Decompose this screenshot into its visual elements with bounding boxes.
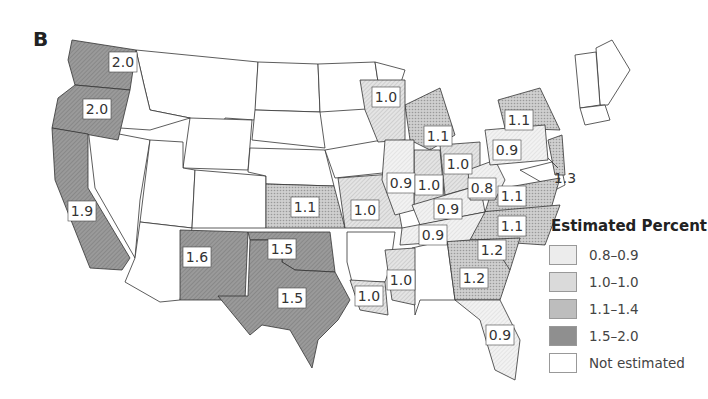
legend-label: 1.5–2.0 bbox=[589, 328, 639, 344]
legend-item: 1.1–1.4 bbox=[551, 295, 707, 322]
value-label: 1.1 bbox=[501, 218, 523, 234]
value-label: 1.1 bbox=[294, 199, 316, 215]
legend-item: 1.0–1.0 bbox=[551, 268, 707, 295]
value-label: 1.0 bbox=[447, 156, 469, 172]
value-label: 1.0 bbox=[418, 177, 440, 193]
value-label: 0.8 bbox=[471, 180, 493, 196]
legend-title: Estimated Percent bbox=[551, 217, 707, 235]
callout-value: 1.3 bbox=[554, 170, 576, 186]
value-label: 1.1 bbox=[501, 188, 523, 204]
value-label: 1.0 bbox=[375, 89, 397, 105]
legend-swatch bbox=[549, 245, 577, 265]
value-label: 0.9 bbox=[422, 227, 444, 243]
value-label: 2.0 bbox=[112, 54, 134, 70]
legend-swatch bbox=[549, 326, 577, 346]
value-label: 1.0 bbox=[358, 288, 380, 304]
legend-label: 1.0–1.0 bbox=[589, 274, 639, 290]
value-label: 1.6 bbox=[186, 249, 208, 265]
legend-item: Not estimated bbox=[551, 349, 707, 376]
legend: Estimated Percent 0.8–0.9 1.0–1.0 1.1–1.… bbox=[551, 217, 707, 376]
value-label: 1.0 bbox=[354, 202, 376, 218]
legend-swatch bbox=[549, 272, 577, 292]
value-label: 2.0 bbox=[86, 101, 108, 117]
value-label: 1.1 bbox=[427, 128, 449, 144]
value-label: 1.1 bbox=[508, 112, 530, 128]
legend-label: Not estimated bbox=[589, 355, 685, 371]
value-label: 1.0 bbox=[390, 272, 412, 288]
legend-item: 0.8–0.9 bbox=[551, 241, 707, 268]
legend-label: 0.8–0.9 bbox=[589, 247, 639, 263]
value-label: 1.9 bbox=[71, 203, 93, 219]
legend-label: 1.1–1.4 bbox=[589, 301, 639, 317]
legend-swatch bbox=[549, 353, 577, 373]
value-label: 0.9 bbox=[390, 175, 412, 191]
legend-swatch bbox=[549, 299, 577, 319]
value-label: 1.5 bbox=[281, 290, 303, 306]
value-label: 0.9 bbox=[496, 142, 518, 158]
value-label: 1.5 bbox=[271, 241, 293, 257]
legend-item: 1.5–2.0 bbox=[551, 322, 707, 349]
value-label: 1.2 bbox=[481, 242, 503, 258]
value-label: 0.9 bbox=[437, 201, 459, 217]
value-label: 1.2 bbox=[463, 270, 485, 286]
value-label: 0.9 bbox=[489, 327, 511, 343]
